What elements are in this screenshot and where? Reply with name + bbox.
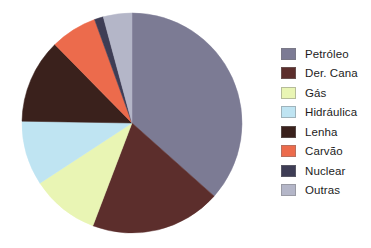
pie-chart-svg [0,0,262,248]
legend-item-outras[interactable]: Outras [281,181,371,201]
legend-swatch-icon [281,165,296,177]
legend-item-der-cana[interactable]: Der. Cana [281,64,371,84]
legend-swatch-icon [281,67,296,79]
pie-chart-area [0,0,262,248]
legend-item-label: Outras [305,184,340,196]
legend-item-label: Carvão [305,145,343,157]
pie-chart-figure: Petróleo Der. Cana Gás Hidráulica Lenha … [0,0,371,248]
legend-item-lenha[interactable]: Lenha [281,122,371,142]
legend-item-petroleo[interactable]: Petróleo [281,44,371,64]
legend-item-label: Petróleo [305,48,349,60]
legend-swatch-icon [281,87,296,99]
legend-item-label: Gás [305,87,326,99]
legend-item-label: Der. Cana [305,67,358,79]
legend-swatch-icon [281,184,296,196]
legend-item-nuclear[interactable]: Nuclear [281,161,371,181]
legend-item-label: Hidráulica [305,106,357,118]
legend-swatch-icon [281,145,296,157]
pie-slice-group [22,13,242,233]
legend-item-label: Lenha [305,126,337,138]
legend-item-hidraulica[interactable]: Hidráulica [281,103,371,123]
legend-swatch-icon [281,126,296,138]
legend-item-carvao[interactable]: Carvão [281,142,371,162]
legend-item-label: Nuclear [305,165,345,177]
chart-legend: Petróleo Der. Cana Gás Hidráulica Lenha … [281,44,371,200]
legend-item-gas[interactable]: Gás [281,83,371,103]
legend-swatch-icon [281,106,296,118]
legend-swatch-icon [281,48,296,60]
